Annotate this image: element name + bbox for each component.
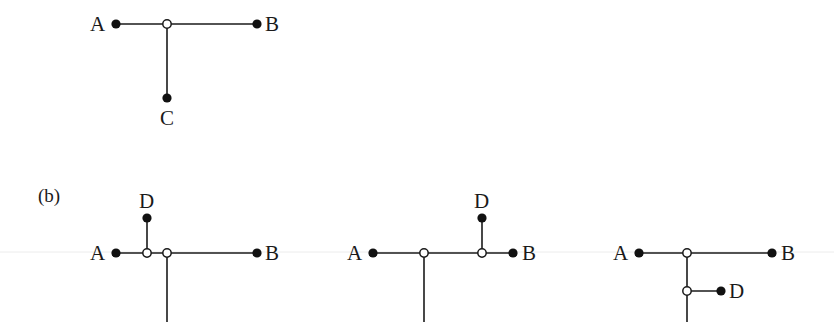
label-c: C [160, 106, 174, 130]
terminal-node-b [252, 248, 261, 257]
steiner-node-new [478, 249, 486, 257]
terminal-node-c [162, 93, 171, 102]
panel-b-label: (b) [38, 185, 60, 207]
label-d: D [474, 189, 489, 213]
label-d: D [729, 279, 744, 303]
panel-b-tree-2: A B D [347, 189, 536, 322]
label-d: D [139, 189, 154, 213]
terminal-node-b [252, 19, 261, 28]
terminal-node-d [477, 213, 486, 222]
top-tree: A B C [90, 12, 279, 130]
label-b: B [265, 241, 279, 265]
panel-b-tree-3: A B D [613, 241, 795, 322]
steiner-node [163, 20, 171, 28]
terminal-node-b [508, 248, 517, 257]
steiner-node [420, 249, 428, 257]
steiner-node [683, 249, 691, 257]
label-a: A [90, 241, 106, 265]
steiner-node-new [143, 249, 151, 257]
steiner-node-new [683, 287, 691, 295]
terminal-node-a [111, 19, 120, 28]
label-a: A [347, 241, 363, 265]
steiner-tree-diagram: A B C (b) A B D A B D [0, 0, 834, 322]
terminal-node-a [111, 248, 120, 257]
terminal-node-a [634, 248, 643, 257]
terminal-node-b [767, 248, 776, 257]
steiner-node [163, 249, 171, 257]
terminal-node-a [368, 248, 377, 257]
label-b: B [265, 12, 279, 36]
label-a: A [90, 12, 106, 36]
panel-b-tree-1: A B D [90, 189, 279, 322]
label-b: B [522, 241, 536, 265]
terminal-node-d [142, 213, 151, 222]
label-b: B [781, 241, 795, 265]
label-a: A [613, 241, 629, 265]
terminal-node-d [716, 286, 725, 295]
